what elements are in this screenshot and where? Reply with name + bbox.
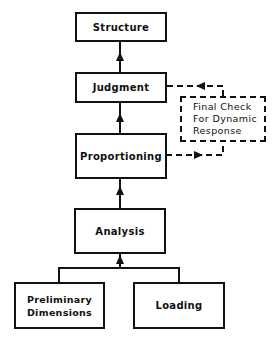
arrowhead-up-icon: [116, 113, 124, 122]
node-structure-label: Structure: [93, 21, 149, 34]
final-check-line2: For Dynamic: [193, 113, 264, 125]
node-loading: Loading: [133, 282, 225, 329]
preliminary-line2: Dimensions: [27, 306, 92, 319]
node-proportioning-label: Proportioning: [80, 150, 162, 163]
node-judgment-label: Judgment: [93, 81, 150, 94]
arrowhead-up-icon: [116, 255, 124, 264]
arrowhead-left-icon: [196, 82, 205, 90]
node-proportioning: Proportioning: [75, 133, 167, 179]
node-judgment: Judgment: [75, 72, 167, 103]
arrowhead-up-icon: [116, 186, 124, 195]
node-analysis: Analysis: [74, 208, 166, 254]
final-check-line1: Final Check: [193, 101, 264, 113]
node-loading-label: Loading: [156, 299, 203, 312]
arrowhead-right-icon: [194, 151, 203, 159]
edge-finalcheck-judgment: [166, 86, 223, 96]
preliminary-line1: Preliminary: [27, 293, 92, 306]
node-preliminary-dimensions: Preliminary Dimensions: [14, 282, 105, 329]
final-check-line3: Response: [193, 125, 264, 137]
node-analysis-label: Analysis: [95, 225, 144, 238]
arrowhead-up-icon: [116, 52, 124, 61]
node-final-check: Final Check For Dynamic Response: [180, 96, 266, 142]
node-structure: Structure: [75, 12, 167, 42]
edge-inputs-branch: [59, 268, 179, 282]
